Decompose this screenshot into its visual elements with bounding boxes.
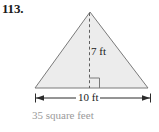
answer-caption: 35 square feet — [32, 109, 94, 122]
dimension-arrow-right-icon — [142, 95, 150, 101]
height-label: 7 ft — [91, 45, 106, 57]
dimension-arrow-left-icon — [36, 95, 44, 101]
base-label: 10 ft — [76, 91, 100, 103]
geometry-figure-panel: 113. 7 ft 10 ft 35 square feet — [0, 0, 159, 132]
